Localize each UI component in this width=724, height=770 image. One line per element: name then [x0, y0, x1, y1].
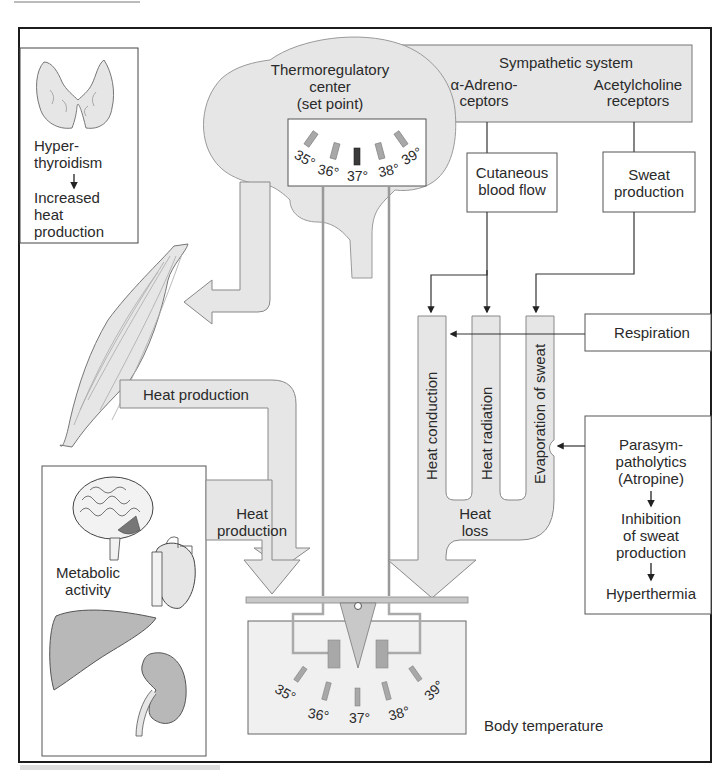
respiration-box: Respiration — [585, 314, 711, 351]
stop-block-left — [328, 640, 340, 668]
setpoint-37: 37° — [347, 168, 368, 184]
ach-label-2: receptors — [607, 92, 670, 109]
sweat-production-box: Sweat production — [603, 152, 695, 212]
heat-loss-label-1: Heat — [459, 505, 492, 522]
parasym-label-2: patholytics — [616, 453, 687, 470]
caption-remnant — [20, 765, 220, 770]
parasym-label-7: Hyperthermia — [606, 585, 697, 602]
ach-label-1: Acetylcholine — [594, 76, 682, 93]
thyroid-label-1: Hyper- — [34, 137, 79, 154]
heat-radiation-label: Heat radiation — [478, 387, 495, 480]
cutaneous-blood-flow-box: Cutaneous blood flow — [467, 153, 557, 212]
sympathetic-title: Sympathetic system — [499, 54, 633, 71]
heat-production-label-lower-2: production — [217, 522, 287, 539]
parasym-label-1: Parasym- — [619, 436, 683, 453]
parasym-label-6: production — [616, 544, 686, 561]
parasym-label-3: (Atropine) — [618, 470, 684, 487]
thermo-label-2: center — [309, 78, 351, 95]
thyroid-label-5: production — [34, 223, 104, 240]
active-setpoint-marker — [354, 148, 360, 165]
heat-loss-label-2: loss — [462, 522, 489, 539]
body-temp-37: 37° — [349, 710, 370, 726]
parasympatholytics-box: Parasym- patholytics (Atropine) Inhibiti… — [585, 416, 711, 614]
set-point-scale: 35° 36° 37° 38° 39° — [288, 119, 426, 186]
pivot-icon — [355, 603, 362, 610]
parasym-label-4: Inhibition — [621, 510, 681, 527]
stop-block-right — [376, 640, 388, 668]
evaporation-label: Evaporation of sweat — [531, 343, 548, 484]
thermo-label-3: (set point) — [297, 95, 364, 112]
thermoregulation-diagram: Hyper- thyroidism Increased heat product… — [0, 0, 724, 770]
thyroid-box: Hyper- thyroidism Increased heat product… — [20, 48, 138, 243]
thyroid-label-2: thyroidism — [34, 154, 102, 171]
thyroid-label-4: heat — [34, 206, 64, 223]
thermo-label-1: Thermoregulatory — [271, 61, 390, 78]
thyroid-label-3: Increased — [34, 189, 100, 206]
lever-bar — [246, 597, 468, 603]
parasym-label-5: of sweat — [623, 527, 680, 544]
respiration-label: Respiration — [614, 324, 690, 341]
alpha-label-2: ceptors — [459, 92, 508, 109]
cutaneous-label-2: blood flow — [478, 181, 546, 198]
sweat-label-2: production — [614, 183, 684, 200]
heat-production-label-upper: Heat production — [143, 386, 249, 403]
metabolic-label-2: activity — [65, 581, 111, 598]
cutaneous-label-1: Cutaneous — [476, 164, 549, 181]
body-temperature-label: Body temperature — [484, 717, 603, 734]
metabolic-label-1: Metabolic — [56, 564, 121, 581]
sweat-label-1: Sweat — [628, 166, 671, 183]
alpha-label-1: α-Adreno- — [450, 76, 517, 93]
heat-production-label-lower-1: Heat — [236, 505, 269, 522]
heat-conduction-label: Heat conduction — [423, 372, 440, 480]
